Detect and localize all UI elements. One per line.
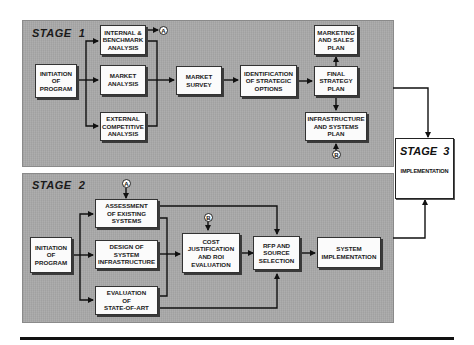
s1-marketing-sales-box: MARKETING AND SALES PLAN bbox=[314, 25, 358, 55]
s2-cost-justification-box: COST JUSTIFICATION AND ROI EVALUATION bbox=[182, 233, 240, 273]
marker-a-out: A bbox=[159, 26, 168, 35]
s1-market-survey-box: MARKET SURVEY bbox=[176, 66, 222, 95]
s1-market-analysis-box: MARKET ANALYSIS bbox=[100, 65, 146, 95]
marker-a-in: A bbox=[122, 179, 131, 188]
s1-external-competitive-box: EXTERNAL COMPETITIVE ANALYSIS bbox=[100, 112, 146, 141]
marker-b-in: B bbox=[332, 150, 341, 159]
s2-assessment-box: ASSESSMENT OF EXISTING SYSTEMS bbox=[95, 199, 158, 228]
stage-3-label: STAGE 3 bbox=[400, 145, 449, 157]
s2-system-implementation-box: SYSTEM IMPLEMENTATION bbox=[317, 237, 381, 268]
s1-final-strategy-box: FINAL STRATEGY PLAN bbox=[314, 66, 358, 96]
stage-1-label: STAGE 1 bbox=[32, 27, 85, 39]
stage-2-label: STAGE 2 bbox=[32, 179, 85, 191]
s1-identification-box: IDENTIFICATION OF STRATEGIC OPTIONS bbox=[240, 65, 297, 97]
bottom-rule bbox=[20, 337, 454, 340]
s2-rfp-box: RFP AND SOURCE SELECTION bbox=[253, 236, 300, 270]
s2-evaluation-box: EVALUATION OF STATE-OF-ART bbox=[95, 286, 158, 315]
stage-3-implementation-label: IMPLEMENTATION bbox=[396, 168, 453, 174]
s1-initiation-box: INITIATION OF PROGRAM bbox=[35, 64, 77, 98]
stage-3-box: STAGE 3 IMPLEMENTATION bbox=[395, 138, 454, 199]
s2-design-box: DESIGN OF SYSTEM INFRASTRUCTURE bbox=[95, 240, 158, 269]
s2-initiation-box: INITIATION OF PROGRAM bbox=[30, 237, 72, 273]
marker-b-in-stage2: B bbox=[204, 213, 213, 222]
s1-infrastructure-box: INFRASTRUCTURE AND SYSTEMS PLAN bbox=[305, 112, 367, 141]
s1-internal-benchmark-box: INTERNAL & BENCHMARK ANALYSIS bbox=[100, 25, 146, 55]
